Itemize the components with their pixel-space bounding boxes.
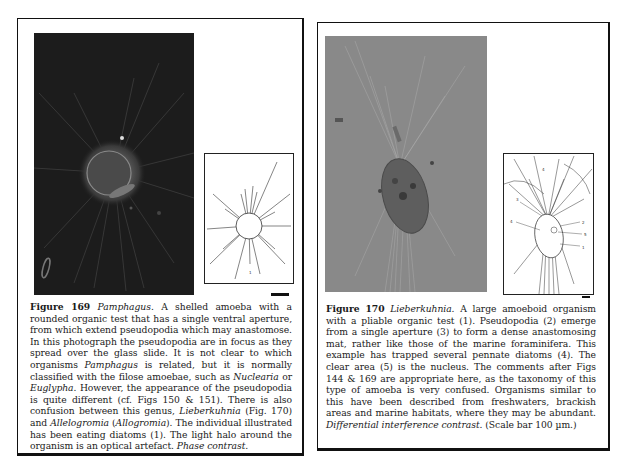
lieberkuhnia-drawing-icon: 4 3 4 2 5 1 (504, 154, 593, 294)
drawing-label-3: 3 (516, 197, 519, 202)
caption-italic: Allelogromia (50, 417, 109, 428)
caption-italic: Nuclearia (233, 371, 278, 382)
figure-170-panel: 4 3 4 2 5 1 Figure 170 Lieberkuhnia. A l… (317, 22, 610, 451)
drawing-label-5: 5 (584, 232, 587, 237)
drawing-label-2: 2 (582, 220, 585, 225)
caption-text: or (279, 371, 292, 382)
figure-label: Figure 170 (326, 303, 385, 314)
caption-text: (Scale bar 100 µm.) (482, 419, 576, 430)
caption-italic: Phase contrast. (177, 440, 248, 451)
caption-italic: Allogromia (116, 417, 166, 428)
figure-169-micrograph (34, 33, 194, 295)
caption-text: A large amoeboid organism with a pliable… (326, 303, 596, 418)
lieberkuhnia-photo-icon (325, 36, 487, 292)
figure-169-caption: Figure 169 Pamphagus. A shelled amoeba w… (30, 301, 292, 452)
caption-italic: Differential interference contrast. (326, 419, 482, 430)
pamphagus-drawing-icon: 1 (205, 154, 293, 283)
caption-italic: Lieberkuhnia (179, 405, 240, 416)
pamphagus-photo-icon (34, 33, 194, 295)
scale-bar (271, 293, 289, 296)
figure-170-caption: Figure 170 Lieberkuhnia. A large amoeboi… (326, 303, 596, 431)
figure-169-line-drawing: 1 (204, 153, 294, 284)
figure-170-line-drawing: 4 3 4 2 5 1 (503, 153, 594, 295)
drawing-label-1: 1 (582, 245, 585, 250)
caption-text: ( (109, 417, 116, 428)
figure-label: Figure 169 (30, 301, 90, 312)
drawing-label: 1 (249, 270, 252, 275)
drawing-label-4-top: 4 (542, 167, 545, 172)
caption-italic: Pamphagus (85, 359, 138, 370)
genus-name: Pamphagus. (98, 301, 154, 312)
scale-bar (582, 296, 590, 298)
figure-169-panel: 1 Figure 169 Pamphagus. A shelled amoeba… (17, 18, 304, 456)
drawing-label-4: 4 (510, 219, 513, 224)
caption-italic: Euglypha (30, 382, 74, 393)
genus-name: Lieberkuhnia. (390, 303, 454, 314)
figure-170-micrograph (325, 36, 487, 292)
